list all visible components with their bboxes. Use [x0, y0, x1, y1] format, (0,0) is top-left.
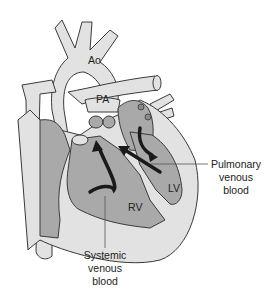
heart-diagram: Ao PA RV LV Pulmonary venous blood Syste… — [0, 0, 271, 296]
label-aorta: Ao — [88, 54, 101, 66]
label-pulmonary-venous-2: venous — [219, 171, 253, 183]
label-right-ventricle: RV — [128, 201, 142, 213]
label-pulmonary-venous-1: Pulmonary — [211, 158, 262, 170]
label-left-ventricle: LV — [168, 182, 180, 194]
aortic-valve — [72, 135, 88, 145]
label-pulmonary-venous-3: blood — [223, 184, 249, 196]
label-pulmonary-artery: PA — [96, 93, 109, 105]
label-systemic-venous-2: venous — [88, 262, 122, 274]
label-systemic-venous-3: blood — [92, 275, 118, 287]
label-systemic-venous-1: Systemic — [84, 249, 127, 261]
